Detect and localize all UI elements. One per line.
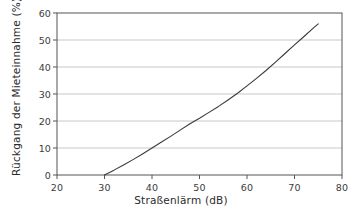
x-axis-tick-label: 20 (51, 182, 63, 193)
y-axis-title: Rückgang der Mieteinnahme (%) (10, 0, 22, 176)
x-axis-tick-label: 50 (193, 182, 205, 193)
x-axis-tick-label: 60 (241, 182, 253, 193)
y-axis-tick-label: 30 (26, 89, 51, 100)
x-axis-title: Straßenlärm (dB) (0, 194, 362, 206)
y-axis-tick-label: 10 (26, 143, 51, 154)
x-axis-tick-label: 70 (288, 182, 300, 193)
chart-figure: 0102030405060 20304050607080 Rückgang de… (0, 0, 362, 219)
gridlines-group (57, 40, 342, 148)
y-axis-tick-label: 0 (26, 170, 51, 181)
data-series-line (105, 24, 319, 175)
y-axis-tick-label: 60 (26, 8, 51, 19)
x-axis-tick-label: 40 (146, 182, 158, 193)
y-axis-tick-label: 20 (26, 116, 51, 127)
y-axis-tick-label: 40 (26, 62, 51, 73)
x-axis-tick-label: 80 (336, 182, 348, 193)
y-axis-tick-label: 50 (26, 35, 51, 46)
axis-ticks-group (53, 13, 342, 179)
x-axis-tick-label: 30 (98, 182, 110, 193)
